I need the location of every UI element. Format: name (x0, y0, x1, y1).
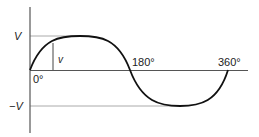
positive-peak-label: V (14, 31, 21, 42)
origin-angle-label: 0° (33, 74, 44, 85)
full-cycle-angle-label: 360° (218, 57, 241, 68)
negative-peak-label: −V (9, 101, 23, 112)
instantaneous-value-label: v (58, 55, 63, 65)
sine-wave-diagram (0, 0, 259, 137)
half-cycle-angle-label: 180° (132, 57, 155, 68)
